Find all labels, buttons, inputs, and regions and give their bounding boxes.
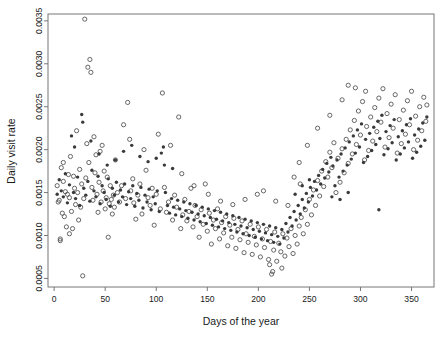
data-point bbox=[100, 143, 104, 147]
data-point bbox=[144, 168, 148, 172]
data-point bbox=[145, 200, 148, 203]
y-tick-label: 0.0010 bbox=[34, 222, 44, 249]
data-point bbox=[82, 196, 86, 200]
data-point bbox=[70, 227, 74, 231]
data-point bbox=[250, 219, 253, 222]
data-point bbox=[256, 225, 260, 229]
data-point bbox=[78, 204, 81, 207]
x-tick-label: 50 bbox=[100, 294, 110, 304]
data-point bbox=[288, 216, 291, 219]
data-point bbox=[401, 129, 404, 132]
data-point bbox=[233, 223, 236, 226]
data-point bbox=[275, 259, 279, 263]
data-point bbox=[327, 170, 330, 173]
data-point bbox=[100, 184, 103, 187]
data-point bbox=[262, 245, 266, 249]
y-tick-label: 0.0020 bbox=[34, 136, 44, 163]
data-point bbox=[382, 153, 385, 156]
data-point bbox=[94, 153, 98, 157]
data-point bbox=[334, 190, 338, 194]
data-point bbox=[146, 160, 149, 163]
data-point bbox=[354, 151, 357, 154]
data-point bbox=[68, 154, 72, 158]
data-point bbox=[117, 200, 120, 203]
data-point bbox=[301, 184, 304, 187]
data-point bbox=[278, 242, 281, 245]
data-point bbox=[174, 213, 177, 216]
data-point bbox=[264, 227, 268, 231]
data-point bbox=[85, 142, 89, 146]
data-point bbox=[365, 124, 369, 128]
data-point bbox=[356, 128, 359, 131]
data-point bbox=[231, 202, 235, 206]
data-point bbox=[166, 204, 169, 207]
data-point bbox=[194, 204, 197, 207]
data-point bbox=[337, 175, 340, 178]
data-point bbox=[176, 199, 179, 202]
data-point bbox=[190, 211, 193, 214]
data-point bbox=[134, 217, 138, 221]
data-point bbox=[115, 181, 118, 184]
data-point bbox=[62, 195, 65, 198]
data-point bbox=[154, 202, 157, 205]
data-point bbox=[160, 91, 164, 95]
data-point bbox=[242, 251, 246, 255]
data-point bbox=[89, 70, 93, 74]
data-point bbox=[301, 198, 304, 201]
data-point bbox=[184, 209, 187, 212]
data-point bbox=[309, 213, 313, 217]
data-point bbox=[211, 223, 214, 226]
data-point bbox=[407, 140, 410, 143]
data-point bbox=[110, 212, 114, 216]
data-point bbox=[386, 147, 389, 150]
x-axis-ticks: 050100150200250300350 bbox=[52, 287, 419, 304]
data-point bbox=[141, 206, 144, 209]
data-point bbox=[92, 189, 95, 192]
data-point bbox=[292, 210, 295, 213]
data-point bbox=[377, 96, 381, 100]
data-point bbox=[352, 118, 356, 122]
data-point bbox=[254, 243, 258, 247]
data-point bbox=[425, 115, 428, 118]
data-point bbox=[97, 152, 100, 155]
data-point bbox=[152, 223, 156, 227]
data-point bbox=[309, 186, 312, 189]
data-point bbox=[343, 146, 346, 149]
data-point bbox=[217, 225, 220, 228]
data-point bbox=[146, 196, 150, 200]
data-point bbox=[252, 228, 255, 231]
data-point bbox=[168, 211, 171, 214]
data-point bbox=[215, 217, 218, 220]
data-point bbox=[201, 222, 205, 226]
data-point bbox=[187, 209, 191, 213]
data-point bbox=[395, 158, 398, 161]
data-point bbox=[131, 177, 135, 181]
data-point bbox=[150, 186, 154, 190]
data-point bbox=[138, 182, 142, 186]
data-point bbox=[331, 164, 334, 167]
data-point bbox=[330, 195, 333, 198]
data-point bbox=[385, 111, 389, 115]
data-point bbox=[399, 152, 402, 155]
data-point bbox=[213, 209, 216, 212]
data-point bbox=[272, 241, 275, 244]
data-point bbox=[315, 126, 319, 130]
data-point bbox=[372, 126, 375, 129]
data-point bbox=[264, 231, 267, 234]
y-axis-title: Daily visit rate bbox=[5, 118, 17, 184]
data-point bbox=[55, 184, 59, 188]
data-point bbox=[246, 240, 250, 244]
data-point bbox=[322, 184, 326, 188]
data-point bbox=[88, 199, 91, 202]
data-point bbox=[68, 183, 71, 186]
data-point bbox=[268, 224, 271, 227]
data-point bbox=[323, 176, 326, 179]
data-point bbox=[66, 172, 70, 176]
data-point bbox=[272, 248, 276, 252]
data-point bbox=[381, 87, 385, 91]
data-point bbox=[139, 186, 142, 189]
data-point bbox=[328, 113, 332, 117]
x-tick-label: 200 bbox=[251, 294, 266, 304]
data-point bbox=[225, 212, 228, 215]
data-point bbox=[338, 198, 341, 201]
